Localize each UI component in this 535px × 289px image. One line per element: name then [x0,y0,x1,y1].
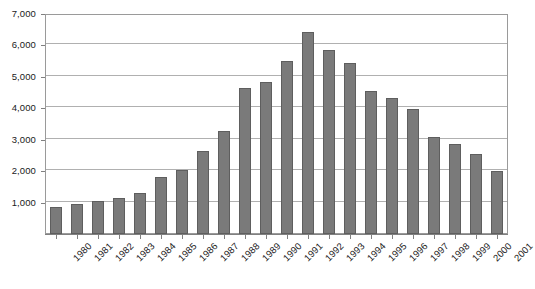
x-tick-label-2000: 2000 [492,241,514,263]
x-tick-mark-1997 [413,235,414,239]
bar-2000 [470,154,482,234]
bar-1991 [281,61,293,234]
x-tick-label-1995: 1995 [387,241,409,263]
bar-1996 [386,98,398,234]
y-tick-label-2000: 2,000 [12,166,36,176]
x-tick-mark-1981 [77,235,78,239]
bar-1997 [407,109,419,234]
x-tick-label-1999: 1999 [471,241,493,263]
x-tick-mark-1987 [203,235,204,239]
x-tick-mark-1994 [350,235,351,239]
bar-1989 [239,88,251,234]
x-tick-mark-1980 [56,235,57,239]
bar-1986 [176,170,188,234]
bar-1981 [71,204,83,234]
y-tick-label-6000: 6,000 [12,40,36,50]
x-tick-label-1994: 1994 [365,241,387,263]
x-tick-label-1982: 1982 [113,241,135,263]
x-tick-mark-1989 [245,235,246,239]
x-tick-label-1980: 1980 [71,241,93,263]
bar-1995 [365,91,377,234]
bar-1982 [92,201,104,234]
y-tick-label-7000: 7,000 [12,9,36,19]
x-tick-label-1992: 1992 [323,241,345,263]
x-tick-mark-1988 [224,235,225,239]
x-tick-label-2001: 2001 [513,241,535,263]
x-tick-mark-1992 [308,235,309,239]
x-tick-mark-1990 [266,235,267,239]
bar-1993 [323,50,335,234]
x-tick-mark-1996 [392,235,393,239]
x-axis: 1980198119821983198419851986198719881989… [45,235,508,289]
x-tick-label-1991: 1991 [302,241,324,263]
bar-1992 [302,32,314,234]
x-tick-mark-1999 [455,235,456,239]
x-tick-label-1998: 1998 [450,241,472,263]
x-tick-label-1981: 1981 [92,241,114,263]
bars-layer [45,14,508,234]
bar-1999 [449,144,461,235]
x-tick-mark-1984 [140,235,141,239]
y-tick-label-3000: 3,000 [12,135,36,145]
x-tick-mark-1983 [119,235,120,239]
bar-1983 [113,198,125,234]
x-tick-mark-2001 [497,235,498,239]
x-tick-mark-1986 [182,235,183,239]
x-tick-label-1984: 1984 [155,241,177,263]
x-tick-mark-2000 [476,235,477,239]
bar-1985 [155,177,167,234]
y-tick-label-5000: 5,000 [12,72,36,82]
x-tick-label-1989: 1989 [260,241,282,263]
y-axis: 7,0006,0005,0004,0003,0002,0001,000 [0,0,45,240]
y-tick-label-1000: 1,000 [12,198,36,208]
x-tick-label-1983: 1983 [134,241,156,263]
x-tick-label-1986: 1986 [197,241,219,263]
bar-1988 [218,131,230,234]
x-tick-mark-1995 [371,235,372,239]
x-tick-label-1987: 1987 [218,241,240,263]
bar-1980 [50,207,62,234]
bar-1990 [260,82,272,234]
x-tick-label-1993: 1993 [344,241,366,263]
x-tick-label-1988: 1988 [239,241,261,263]
x-tick-mark-1991 [287,235,288,239]
x-tick-mark-1993 [329,235,330,239]
x-tick-mark-1985 [161,235,162,239]
x-tick-label-1996: 1996 [408,241,430,263]
bar-1987 [197,151,209,234]
x-tick-label-1985: 1985 [176,241,198,263]
x-tick-mark-1982 [98,235,99,239]
bar-2001 [491,171,503,234]
bar-1998 [428,137,440,234]
x-tick-mark-1998 [434,235,435,239]
x-tick-label-1997: 1997 [429,241,451,263]
x-tick-label-1990: 1990 [281,241,303,263]
y-tick-label-4000: 4,000 [12,103,36,113]
bar-1984 [134,193,146,234]
bar-1994 [344,63,356,234]
